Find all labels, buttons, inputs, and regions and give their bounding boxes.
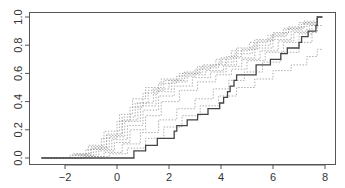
plot-frame <box>30 13 336 165</box>
x-axis: −202468 <box>59 165 328 183</box>
simulated-ecdf-line <box>42 17 323 158</box>
simulated-ecdf-line <box>42 17 323 158</box>
simulated-ecdf-line <box>42 17 323 158</box>
observed-ecdf-line <box>42 17 323 158</box>
x-tick-label: 6 <box>270 171 276 183</box>
x-tick-label: 4 <box>218 171 224 183</box>
y-tick-label: 1.0 <box>12 9 24 24</box>
x-tick-label: 2 <box>166 171 172 183</box>
simulated-ecdf-line <box>42 49 323 158</box>
simulated-ecdf-line <box>42 17 323 158</box>
x-tick-label: 0 <box>114 171 120 183</box>
series-layer <box>42 17 323 158</box>
y-tick-label: 0.8 <box>12 38 24 53</box>
y-tick-label: 0.0 <box>12 150 24 165</box>
x-tick-label: 8 <box>322 171 328 183</box>
y-tick-label: 0.4 <box>12 94 24 109</box>
y-axis: 0.00.20.40.60.81.0 <box>12 9 29 165</box>
y-tick-label: 0.6 <box>12 66 24 81</box>
simulated-ecdf-line <box>42 17 323 158</box>
ecdf-chart: −202468 0.00.20.40.60.81.0 <box>0 0 345 188</box>
simulated-ecdf-line <box>42 17 323 158</box>
simulated-ecdf-line <box>42 26 323 159</box>
simulated-ecdf-line <box>42 17 323 158</box>
x-tick-label: −2 <box>59 171 72 183</box>
y-tick-label: 0.2 <box>12 122 24 137</box>
